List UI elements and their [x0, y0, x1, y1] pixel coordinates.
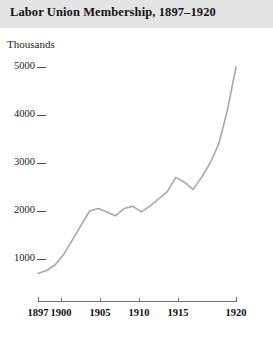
x-tick-label: 1915	[158, 307, 198, 318]
y-tick-mark	[37, 211, 46, 212]
x-tick-mark	[236, 297, 237, 302]
x-axis-line	[38, 301, 236, 302]
y-tick-label: 3000	[1, 156, 35, 167]
y-tick-mark	[37, 115, 46, 116]
line-series-labor-union-membership	[0, 0, 273, 337]
x-tick-mark	[100, 298, 101, 302]
x-tick-label: 1905	[80, 307, 120, 318]
y-tick-label: 2000	[1, 204, 35, 215]
x-tick-label: 1910	[119, 307, 159, 318]
x-tick-label: 1920	[216, 307, 256, 318]
x-tick-mark	[38, 297, 39, 302]
y-tick-mark	[37, 67, 46, 68]
y-tick-mark	[37, 163, 46, 164]
y-tick-label: 4000	[1, 108, 35, 119]
y-tick-mark	[37, 259, 46, 260]
x-tick-mark	[139, 298, 140, 302]
x-tick-mark	[61, 298, 62, 302]
y-tick-label: 5000	[1, 60, 35, 71]
plot-area	[0, 0, 273, 337]
x-tick-label: 1900	[41, 307, 81, 318]
y-tick-label: 1000	[1, 252, 35, 263]
chart-figure: Labor Union Membership, 1897–1920 Thousa…	[0, 0, 273, 337]
x-tick-mark	[178, 298, 179, 302]
